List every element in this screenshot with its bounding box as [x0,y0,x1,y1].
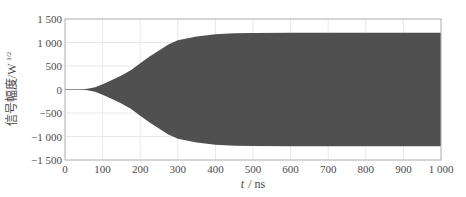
y-tick-label: −1 000 [31,131,62,143]
x-tick-label: 500 [245,163,262,175]
x-tick-label: 700 [320,163,337,175]
x-tick-label: 800 [358,163,375,175]
x-axis-ticks: 01002003004005006007008009001 000 [62,163,454,175]
y-tick-label: 500 [46,60,63,72]
x-axis-label-unit: / ns [248,177,265,191]
x-tick-label: 600 [282,163,299,175]
x-tick-label: 1 000 [429,163,454,175]
y-tick-label: 1 500 [37,13,62,25]
signal-envelope-area [65,33,441,146]
y-tick-label: −1 500 [31,154,62,166]
y-axis-label: 信号幅度/W 1/2 [4,51,19,126]
x-tick-label: 100 [94,163,111,175]
y-tick-label: −500 [39,107,62,119]
y-tick-label: 1 000 [37,37,62,49]
y-axis-ticks: 1 5001 0005000−500−1 000−1 500 [31,13,62,166]
x-tick-label: 400 [207,163,224,175]
x-axis-label: t / ns [241,177,266,191]
x-tick-label: 0 [62,163,68,175]
y-axis-label-text: 信号幅度/W [4,63,19,126]
y-tick-label: 0 [57,84,63,96]
y-axis-label-sup: 1/2 [5,51,13,60]
x-axis-label-var: t [241,177,245,191]
x-tick-label: 900 [395,163,412,175]
signal-amplitude-chart: 01002003004005006007008009001 000 1 5001… [0,0,466,197]
x-tick-label: 300 [170,163,187,175]
x-tick-label: 200 [132,163,149,175]
